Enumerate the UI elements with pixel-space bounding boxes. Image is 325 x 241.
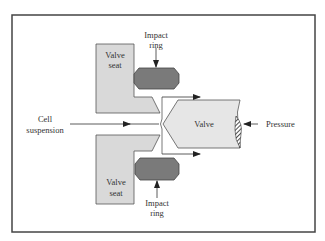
impact-ring-top (134, 68, 179, 89)
top-ring-label-1: Impact (144, 30, 168, 40)
inlet-label-2: suspension (26, 125, 64, 135)
bottom-seat-label-1: Valve (106, 177, 126, 187)
impact-ring-bottom (135, 158, 179, 180)
top-ring-label-2: ring (149, 40, 163, 50)
bottom-ring-label-2: ring (150, 208, 164, 218)
top-seat-label-2: seat (108, 60, 122, 70)
pressure-label: Pressure (266, 119, 295, 129)
bottom-ring-label-1: Impact (145, 198, 169, 208)
inlet-label-1: Cell (38, 114, 53, 124)
valve-label: Valve (194, 119, 214, 129)
bottom-seat-label-2: seat (109, 188, 123, 198)
homogenizer-valve-diagram: Valve seat Valve seat Impact ring Impact… (0, 0, 325, 241)
top-seat-label-1: Valve (105, 50, 125, 60)
